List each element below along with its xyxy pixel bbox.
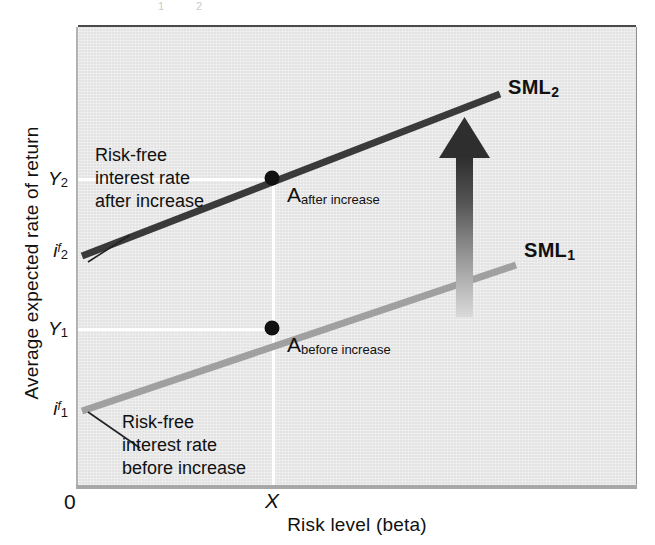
series-label-sml1-main: SML bbox=[524, 239, 567, 261]
point-marker-after bbox=[265, 171, 280, 186]
point-label-after: Aafter increase bbox=[287, 183, 380, 207]
annotation-before-increase: Risk-free interest rate before increase bbox=[122, 411, 246, 480]
y-tick-Y1-sub: 1 bbox=[61, 325, 68, 340]
series-label-sml2-sub: 2 bbox=[551, 84, 559, 100]
y-tick-Y2-sub: 2 bbox=[61, 175, 68, 190]
annotation-before-line-1: Risk-free bbox=[122, 411, 246, 434]
series-label-sml2-main: SML bbox=[508, 76, 551, 98]
annotation-before-line-2: interest rate bbox=[122, 434, 246, 457]
x-axis-title: Risk level (beta) bbox=[78, 514, 636, 536]
series-label-sml1-sub: 1 bbox=[567, 247, 575, 263]
y-tick-if2-sub: 2 bbox=[61, 247, 68, 262]
y-axis-title: Average expected rate of return bbox=[21, 113, 43, 413]
annotation-after-line-3: after increase bbox=[95, 190, 204, 213]
point-label-before: Abefore increase bbox=[287, 333, 391, 357]
y-tick-if2: if2 bbox=[8, 240, 68, 262]
annotation-after-line-1: Risk-free bbox=[95, 144, 204, 167]
figure-root: 1 2 bbox=[0, 0, 655, 545]
annotation-after-line-2: interest rate bbox=[95, 167, 204, 190]
point-marker-before bbox=[265, 321, 280, 336]
y-tick-Y1-main: Y bbox=[48, 318, 61, 339]
annotation-before-line-3: before increase bbox=[122, 457, 246, 480]
x-tick-origin: 0 bbox=[64, 490, 76, 514]
point-label-before-sub: before increase bbox=[301, 342, 391, 357]
x-tick-X: X bbox=[265, 489, 279, 513]
y-tick-Y2-main: Y bbox=[48, 168, 61, 189]
series-label-sml2: SML2 bbox=[508, 76, 559, 100]
y-tick-if1: if1 bbox=[8, 398, 68, 420]
point-label-before-main: A bbox=[287, 333, 301, 356]
y-tick-if1-sub: 1 bbox=[61, 405, 68, 420]
point-label-after-main: A bbox=[287, 183, 301, 206]
series-label-sml1: SML1 bbox=[524, 239, 575, 263]
y-tick-Y1: Y1 bbox=[8, 318, 68, 340]
annotation-after-increase: Risk-free interest rate after increase bbox=[95, 144, 204, 213]
point-label-after-sub: after increase bbox=[301, 192, 380, 207]
y-tick-Y2: Y2 bbox=[8, 168, 68, 190]
